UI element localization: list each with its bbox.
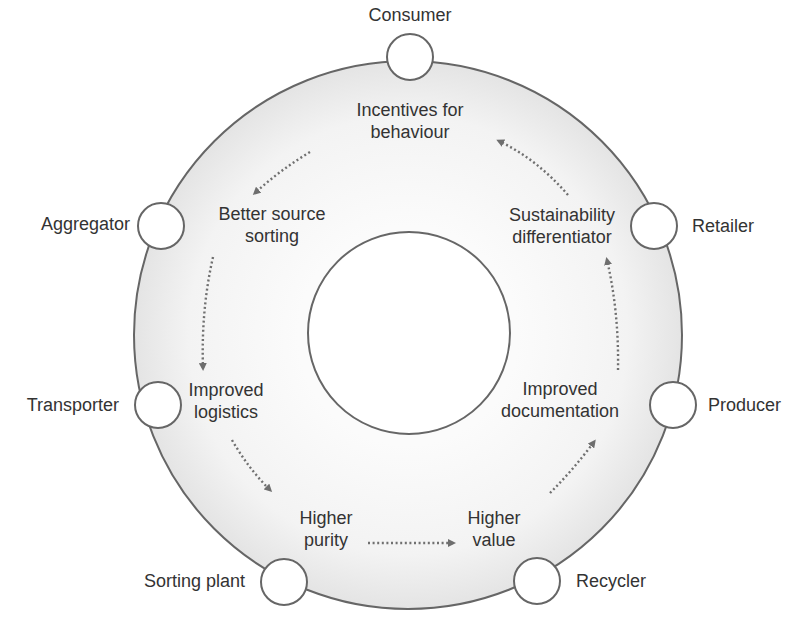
benefit-sustainability-line1: Sustainability — [509, 204, 615, 226]
label-consumer: Consumer — [368, 4, 451, 26]
benefit-value-line2: value — [467, 529, 520, 551]
label-recycler: Recycler — [576, 570, 646, 592]
benefit-purity-line1: Higher — [299, 507, 352, 529]
node-consumer — [387, 34, 433, 80]
benefit-incentives-line2: behaviour — [356, 121, 463, 143]
label-transporter: Transporter — [27, 394, 119, 416]
label-retailer: Retailer — [692, 215, 754, 237]
benefit-better-sorting-line2: sorting — [218, 225, 325, 247]
inner-circle — [308, 232, 510, 434]
benefit-incentives: Incentives for behaviour — [356, 99, 463, 143]
node-recycler — [514, 558, 560, 604]
benefit-purity: Higher purity — [299, 507, 352, 551]
benefit-documentation: Improved documentation — [501, 378, 619, 422]
benefit-purity-line2: purity — [299, 529, 352, 551]
benefit-value-line1: Higher — [467, 507, 520, 529]
benefit-documentation-line1: Improved — [501, 378, 619, 400]
label-aggregator: Aggregator — [41, 213, 130, 235]
benefit-better-sorting: Better source sorting — [218, 203, 325, 247]
value-cycle-diagram — [0, 0, 797, 618]
benefit-logistics: Improved logistics — [188, 379, 263, 423]
node-aggregator — [138, 203, 184, 249]
node-retailer — [631, 203, 677, 249]
benefit-value: Higher value — [467, 507, 520, 551]
benefit-logistics-line2: logistics — [188, 401, 263, 423]
benefit-sustainability: Sustainability differentiator — [509, 204, 615, 248]
node-transporter — [135, 382, 181, 428]
label-producer: Producer — [708, 394, 781, 416]
benefit-logistics-line1: Improved — [188, 379, 263, 401]
benefit-incentives-line1: Incentives for — [356, 99, 463, 121]
benefit-sustainability-line2: differentiator — [509, 226, 615, 248]
node-sorting-plant — [261, 559, 307, 605]
label-sorting-plant: Sorting plant — [144, 570, 245, 592]
benefit-documentation-line2: documentation — [501, 400, 619, 422]
benefit-better-sorting-line1: Better source — [218, 203, 325, 225]
node-producer — [650, 382, 696, 428]
